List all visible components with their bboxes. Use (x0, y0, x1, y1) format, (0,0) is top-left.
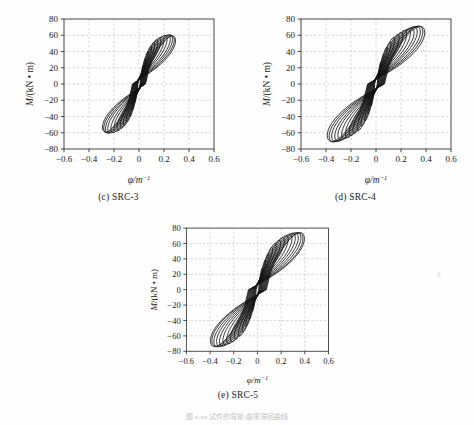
svg-text:−40: −40 (167, 316, 180, 326)
svg-text:−0.6: −0.6 (179, 356, 194, 366)
svg-text:−40: −40 (44, 112, 59, 122)
svg-text:0.4: 0.4 (299, 356, 310, 366)
svg-text:0.6: 0.6 (323, 356, 334, 366)
svg-text:−60: −60 (167, 331, 180, 341)
hysteresis-plot-src-5: −0.6−0.4−0.200.20.40.6−80−60−40−20020406… (118, 212, 358, 392)
svg-text:−0.4: −0.4 (81, 154, 98, 164)
svg-text:0: 0 (137, 154, 142, 164)
svg-text:−60: −60 (281, 128, 296, 138)
svg-text:−40: −40 (281, 112, 296, 122)
svg-text:φ/m−1: φ/m−1 (247, 375, 268, 385)
svg-text:0: 0 (255, 356, 259, 366)
svg-text:−20: −20 (167, 300, 180, 310)
svg-text:M/(kN • m): M/(kN • m) (149, 269, 159, 312)
svg-text:60: 60 (172, 239, 181, 249)
svg-text:0.2: 0.2 (158, 154, 169, 164)
svg-text:0: 0 (54, 79, 59, 89)
hysteresis-plot-src-3: −0.6−0.4−0.200.20.40.6−80−60−40−20020406… (0, 2, 237, 192)
svg-text:80: 80 (172, 223, 181, 233)
svg-text:−80: −80 (281, 144, 296, 154)
svg-text:80: 80 (286, 14, 296, 24)
svg-text:40: 40 (172, 254, 181, 264)
svg-text:0.2: 0.2 (395, 154, 406, 164)
svg-text:0: 0 (374, 154, 379, 164)
svg-text:60: 60 (286, 30, 296, 40)
figure-bottom-caption: 图 x-xx 试件的弯矩-曲率滞回曲线 (0, 411, 474, 420)
svg-text:60: 60 (49, 30, 59, 40)
hysteresis-plot-src-4: −0.6−0.4−0.200.20.40.6−80−60−40−20020406… (237, 2, 474, 192)
svg-text:−0.2: −0.2 (226, 356, 241, 366)
svg-text:M/(kN • m): M/(kN • m) (25, 62, 36, 107)
svg-text:−0.6: −0.6 (293, 154, 310, 164)
subcaption-src-3: (c) SRC-3 (0, 192, 237, 202)
figure-page: −0.6−0.4−0.200.20.40.6−80−60−40−20020406… (0, 0, 474, 425)
plot-area-src-4: −0.6−0.4−0.200.20.40.6−80−60−40−20020406… (237, 2, 474, 210)
svg-text:φ/m−1: φ/m−1 (128, 174, 150, 185)
svg-text:−80: −80 (167, 346, 180, 356)
chart-block-src-4: −0.6−0.4−0.200.20.40.6−80−60−40−20020406… (237, 2, 474, 210)
plot-area-src-3: −0.6−0.4−0.200.20.40.6−80−60−40−20020406… (0, 2, 237, 210)
svg-text:−0.4: −0.4 (202, 356, 218, 366)
svg-text:0.6: 0.6 (445, 154, 457, 164)
page-artifact-speck (437, 272, 441, 277)
svg-text:0.2: 0.2 (276, 356, 287, 366)
svg-text:20: 20 (172, 269, 181, 279)
svg-text:40: 40 (49, 47, 59, 57)
svg-text:−0.4: −0.4 (318, 154, 335, 164)
svg-text:φ/m−1: φ/m−1 (365, 174, 387, 185)
subcaption-src-4: (d) SRC-4 (237, 192, 474, 202)
chart-block-src-5: −0.6−0.4−0.200.20.40.6−80−60−40−20020406… (118, 212, 358, 408)
subcaption-src-5: (e) SRC-5 (118, 390, 358, 400)
svg-text:80: 80 (49, 14, 59, 24)
svg-text:−0.6: −0.6 (56, 154, 73, 164)
plot-area-src-5: −0.6−0.4−0.200.20.40.6−80−60−40−20020406… (118, 212, 358, 408)
svg-text:20: 20 (49, 63, 59, 73)
svg-text:−80: −80 (44, 144, 59, 154)
svg-text:20: 20 (286, 63, 296, 73)
svg-text:M/(kN • m): M/(kN • m) (262, 62, 273, 107)
chart-block-src-3: −0.6−0.4−0.200.20.40.6−80−60−40−20020406… (0, 2, 237, 210)
svg-text:0.4: 0.4 (183, 154, 195, 164)
svg-text:0.6: 0.6 (208, 154, 220, 164)
svg-text:−20: −20 (44, 95, 59, 105)
svg-text:0.4: 0.4 (420, 154, 432, 164)
svg-text:−0.2: −0.2 (343, 154, 359, 164)
svg-text:0: 0 (291, 79, 296, 89)
svg-text:0: 0 (176, 285, 180, 295)
svg-text:−20: −20 (281, 95, 296, 105)
svg-text:−60: −60 (44, 128, 59, 138)
svg-text:−0.2: −0.2 (106, 154, 122, 164)
svg-text:40: 40 (286, 47, 296, 57)
